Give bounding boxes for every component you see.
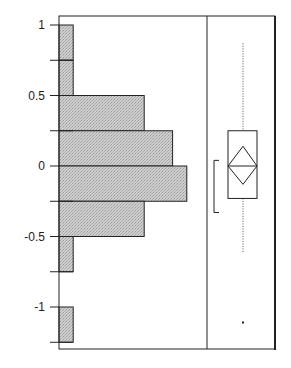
quartile-box <box>228 131 257 199</box>
histogram-bar <box>59 307 73 342</box>
histogram-boxplot-chart: 10.50-0.5-1 <box>0 0 291 368</box>
y-tick-label: 0.5 <box>28 89 45 103</box>
y-tick-label: 0 <box>38 159 45 173</box>
shortest-half-bracket <box>214 160 219 212</box>
histogram-bar <box>59 131 173 166</box>
y-tick-label: 1 <box>38 18 45 32</box>
histogram-bars <box>59 25 187 342</box>
outlier-point <box>242 322 244 324</box>
histogram-bar <box>59 96 144 131</box>
y-tick-label: -0.5 <box>24 230 45 244</box>
histogram-bar <box>59 25 73 60</box>
box-plot <box>214 43 257 323</box>
histogram-bar <box>59 237 73 272</box>
y-tick-label: -1 <box>34 300 45 314</box>
histogram-bar <box>59 60 73 95</box>
histogram-bar <box>59 201 144 236</box>
histogram-bar <box>59 166 187 201</box>
